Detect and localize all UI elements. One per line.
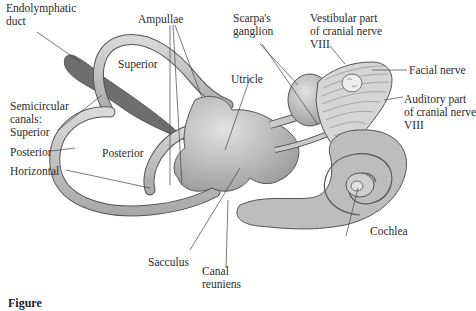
facial-nerve-cut-shape [342,74,362,92]
label-ampullae: Ampullae [138,13,183,26]
label-superior-canal-inner: Superior [118,58,158,71]
label-endolymphatic-duct: Endolymphatic duct [6,2,76,28]
vestibule-shape [174,96,299,191]
label-auditory-nerve: Auditory part of cranial nerve VIII [404,93,476,132]
label-vestibular-nerve: Vestibular part of cranial nerve VIII [310,12,382,51]
label-posterior: Posterior [10,146,52,159]
figure-caption: Figure [8,296,42,311]
label-sacculus: Sacculus [148,256,189,269]
label-scarpas-ganglion: Scarpa's ganglion [233,12,273,38]
label-cochlea: Cochlea [370,225,408,238]
label-semicircular-canals: Semicircular canals: [10,100,69,126]
label-horizontal: Horizontal [10,165,59,178]
label-superior: Superior [10,126,50,139]
label-facial-nerve: Facial nerve [409,64,466,77]
label-utricle: Utricle [231,73,263,86]
label-canal-reuniens: Canal reuniens [202,265,241,291]
label-posterior-canal-inner: Posterior [102,147,144,160]
